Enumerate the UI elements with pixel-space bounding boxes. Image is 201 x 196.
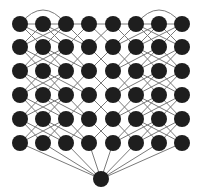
node-r1-c5 xyxy=(128,39,144,55)
node-r2-c3 xyxy=(81,63,97,79)
node-r2-c2 xyxy=(58,63,74,79)
node-r5-c5 xyxy=(128,135,144,151)
node-r0-c2 xyxy=(58,16,74,32)
network-diagram xyxy=(0,0,201,196)
node-r1-c0 xyxy=(12,39,28,55)
sink-node xyxy=(93,171,109,187)
node-r2-c5 xyxy=(128,63,144,79)
node-r4-c7 xyxy=(174,111,190,127)
node-r5-c6 xyxy=(151,135,167,151)
node-r3-c2 xyxy=(58,87,74,103)
node-r0-c1 xyxy=(35,16,51,32)
node-r3-c6 xyxy=(151,87,167,103)
node-r4-c6 xyxy=(151,111,167,127)
node-r3-c0 xyxy=(12,87,28,103)
node-r0-c7 xyxy=(174,16,190,32)
node-r2-c0 xyxy=(12,63,28,79)
node-r0-c4 xyxy=(105,16,121,32)
node-r2-c6 xyxy=(151,63,167,79)
node-r1-c7 xyxy=(174,39,190,55)
node-r1-c1 xyxy=(35,39,51,55)
node-r5-c4 xyxy=(105,135,121,151)
node-r5-c7 xyxy=(174,135,190,151)
node-r3-c1 xyxy=(35,87,51,103)
node-r4-c3 xyxy=(81,111,97,127)
node-r0-c0 xyxy=(12,16,28,32)
node-r0-c5 xyxy=(128,16,144,32)
node-r3-c5 xyxy=(128,87,144,103)
node-r4-c2 xyxy=(58,111,74,127)
node-r3-c3 xyxy=(81,87,97,103)
node-r5-c1 xyxy=(35,135,51,151)
node-r5-c2 xyxy=(58,135,74,151)
node-r0-c6 xyxy=(151,16,167,32)
node-r2-c1 xyxy=(35,63,51,79)
node-r1-c3 xyxy=(81,39,97,55)
node-r2-c4 xyxy=(105,63,121,79)
node-r5-c3 xyxy=(81,135,97,151)
node-r4-c5 xyxy=(128,111,144,127)
node-r4-c0 xyxy=(12,111,28,127)
node-r1-c6 xyxy=(151,39,167,55)
node-r5-c0 xyxy=(12,135,28,151)
node-r0-c3 xyxy=(81,16,97,32)
nodes-layer xyxy=(12,16,190,187)
node-r3-c7 xyxy=(174,87,190,103)
node-r2-c7 xyxy=(174,63,190,79)
node-r3-c4 xyxy=(105,87,121,103)
node-r1-c4 xyxy=(105,39,121,55)
node-r4-c1 xyxy=(35,111,51,127)
node-r4-c4 xyxy=(105,111,121,127)
node-r1-c2 xyxy=(58,39,74,55)
